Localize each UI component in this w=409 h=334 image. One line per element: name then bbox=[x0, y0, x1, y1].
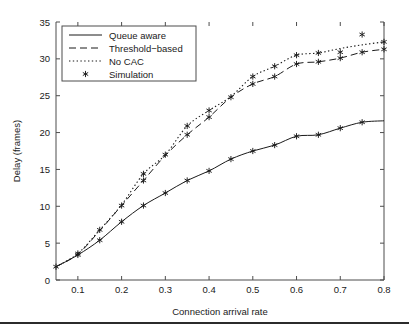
y-axis-title: Delay (frames) bbox=[11, 120, 22, 182]
footer-divider bbox=[0, 322, 409, 324]
delay-vs-arrival-rate-chart: 0.10.20.30.40.50.60.70.805101520253035 Q… bbox=[0, 0, 409, 334]
x-tick-label: 0.8 bbox=[377, 284, 390, 295]
legend-label: No CAC bbox=[109, 56, 144, 67]
y-tick-label: 30 bbox=[39, 53, 50, 64]
y-tick-label: 20 bbox=[39, 127, 50, 138]
x-tick-label: 0.7 bbox=[334, 284, 347, 295]
y-tick-label: 0 bbox=[45, 275, 50, 286]
x-tick-label: 0.2 bbox=[115, 284, 128, 295]
legend-label: Threshold−based bbox=[109, 43, 183, 54]
x-tick-label: 0.3 bbox=[159, 284, 172, 295]
x-tick-label: 0.1 bbox=[71, 284, 84, 295]
x-tick-label: 0.6 bbox=[290, 284, 303, 295]
y-tick-label: 25 bbox=[39, 90, 50, 101]
y-tick-label: 10 bbox=[39, 201, 50, 212]
y-tick-label: 5 bbox=[45, 238, 50, 249]
x-tick-label: 0.4 bbox=[202, 284, 215, 295]
chart-legend: Queue awareThreshold−basedNo CACSimulati… bbox=[62, 26, 196, 81]
chart-figure: 0.10.20.30.40.50.60.70.805101520253035 Q… bbox=[0, 0, 409, 334]
legend-label: Simulation bbox=[109, 69, 153, 80]
y-tick-label: 15 bbox=[39, 164, 50, 175]
x-tick-label: 0.5 bbox=[246, 284, 259, 295]
x-axis-title: Connection arrival rate bbox=[172, 306, 268, 317]
legend-label: Queue aware bbox=[109, 30, 166, 41]
y-tick-label: 35 bbox=[39, 17, 50, 28]
